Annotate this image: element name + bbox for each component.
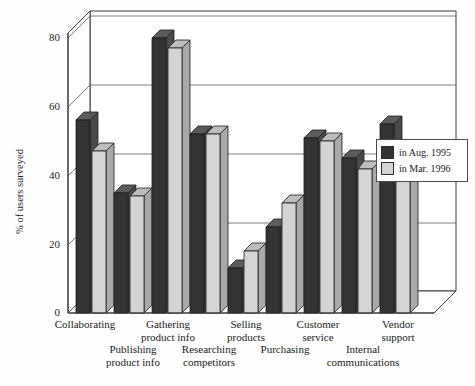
legend-label-mar-1996: in Mar. 1996 xyxy=(399,163,450,174)
y-tick-label-20: 20 xyxy=(34,238,60,250)
y-tick-label-80: 80 xyxy=(34,31,60,43)
bars-group-gathering-product-info xyxy=(152,30,190,313)
plot-area: .axisline{stroke:#3a3a3a;stroke-width:1;… xyxy=(0,0,475,386)
legend: in Aug. 1995 in Mar. 1996 xyxy=(376,139,468,182)
legend-swatch-aug-1995 xyxy=(381,146,394,159)
bars-group-researching-competitors xyxy=(190,126,228,313)
bars-group-internal-communications xyxy=(342,150,380,313)
figure-chart-3d-bar: .axisline{stroke:#3a3a3a;stroke-width:1;… xyxy=(0,0,475,386)
legend-item-aug-1995[interactable]: in Aug. 1995 xyxy=(381,145,463,160)
category-label-internal-communications: Internal communications xyxy=(303,343,423,368)
bars-group-customer-service xyxy=(304,130,342,313)
legend-label-aug-1995: in Aug. 1995 xyxy=(399,147,451,158)
y-tick-label-0: 0 xyxy=(34,306,60,318)
legend-swatch-mar-1996 xyxy=(381,162,394,175)
legend-item-mar-1996[interactable]: in Mar. 1996 xyxy=(381,161,463,176)
bars-group-publishing-product-info xyxy=(114,185,152,313)
category-label-vendor-support: Vendor support xyxy=(348,318,448,343)
y-tick-label-40: 40 xyxy=(34,169,60,181)
y-tick-label-60: 60 xyxy=(34,100,60,112)
y-axis-title: % of users surveyed xyxy=(14,137,25,247)
